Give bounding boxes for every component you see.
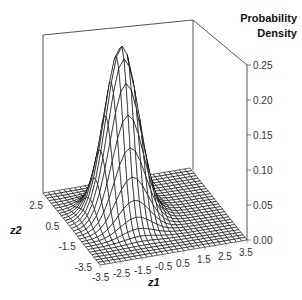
density-axis-title-line1: Probability [240, 12, 298, 24]
z1-axis-title: z1 [147, 276, 160, 288]
z2-axis-title: z2 [9, 224, 22, 236]
density-tick-label: 0.10 [253, 165, 273, 176]
z1-tick-label: -3.5 [92, 272, 110, 283]
density-tick-label: 0.05 [253, 200, 273, 211]
wall-top-right [193, 20, 247, 65]
wireframe-surface [43, 46, 247, 265]
z1-tick-label: 3.5 [239, 247, 253, 258]
density-axis-ticks: 0.000.050.100.150.200.25 [247, 60, 273, 246]
density-axis-title-line2: Density [257, 27, 298, 39]
density-tick-label: 0.25 [253, 60, 273, 71]
z2-tick-label: 0.5 [46, 221, 60, 232]
density-tick-label: 0.20 [253, 95, 273, 106]
z1-tick-label: -0.5 [155, 261, 173, 272]
z1-tick-label: 2.5 [218, 251, 232, 262]
density-tick-label: 0.00 [253, 235, 273, 246]
wall-top-left [43, 20, 193, 35]
z1-tick-label: -2.5 [113, 268, 131, 279]
density-tick-label: 0.15 [253, 130, 273, 141]
z2-tick-label: -3.5 [75, 262, 93, 273]
z2-tick-label: -1.5 [58, 241, 76, 252]
z1-tick-label: 1.5 [197, 254, 211, 265]
z2-tick-label: 2.5 [29, 200, 43, 211]
z1-tick-label: -1.5 [134, 265, 152, 276]
z1-tick-label: 0.5 [176, 258, 190, 269]
surface-plot: -3.5-2.5-1.5-0.50.51.52.53.5 -3.5-1.50.5… [0, 0, 302, 300]
